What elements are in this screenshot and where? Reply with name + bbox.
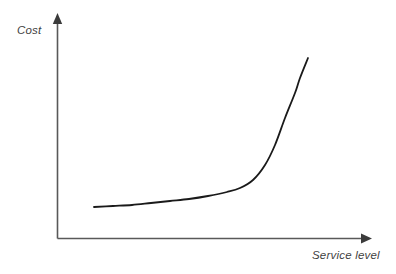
y-axis-arrowhead (53, 13, 62, 24)
chart-figure: Cost Service level (0, 0, 396, 274)
x-axis-arrowhead (361, 234, 372, 244)
chart-canvas (0, 0, 396, 274)
cost-curve-line (94, 58, 308, 207)
y-axis-label: Cost (17, 24, 41, 37)
x-axis-label: Service level (312, 249, 380, 262)
